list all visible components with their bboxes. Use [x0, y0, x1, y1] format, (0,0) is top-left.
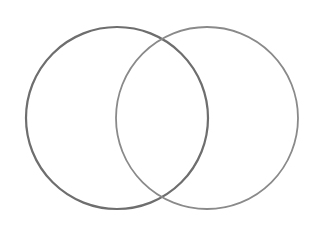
circles-group	[26, 27, 298, 209]
venn-svg	[0, 0, 317, 233]
venn-diagram	[0, 0, 317, 233]
venn-circle-left	[26, 27, 208, 209]
